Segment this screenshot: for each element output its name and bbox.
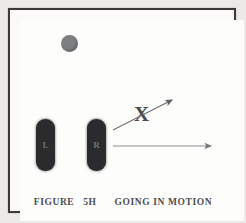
player-marker-right-label: R <box>93 141 100 150</box>
player-marker-left-label: L <box>42 141 48 150</box>
x-position-label: X <box>134 104 149 125</box>
football-icon <box>61 35 78 52</box>
caption-title: GOING IN MOTION <box>115 197 213 207</box>
caption-number: 5H <box>83 197 96 207</box>
figure-caption: FIGURE 5H GOING IN MOTION <box>10 197 236 207</box>
player-marker-left[interactable]: L <box>36 119 55 171</box>
caption-label: FIGURE <box>34 197 75 207</box>
figure-container: L R X FIGURE 5H GOING IN MOTION <box>0 0 246 223</box>
figure-plate <box>20 20 244 221</box>
figure-frame <box>8 8 236 213</box>
player-marker-right[interactable]: R <box>87 119 106 171</box>
